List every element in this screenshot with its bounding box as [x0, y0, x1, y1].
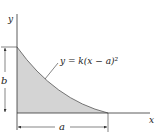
b-dimension-label: b: [1, 75, 7, 86]
equation-leader-line: [45, 63, 58, 79]
x-axis-label: x: [149, 115, 154, 125]
diagram-canvas: y x b a y = k(x − a)²: [0, 0, 158, 136]
curve-equation-label: y = k(x − a)²: [59, 56, 119, 66]
y-axis-label: y: [7, 14, 14, 24]
a-dimension-label: a: [59, 121, 65, 132]
